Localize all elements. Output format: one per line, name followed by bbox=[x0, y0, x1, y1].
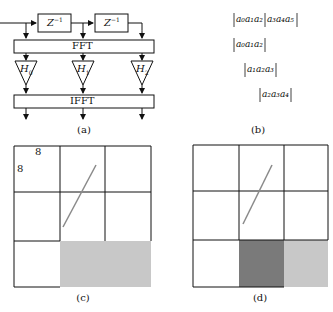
filter-label-h2: H2 bbox=[136, 63, 149, 76]
panel-c-grid bbox=[14, 146, 151, 287]
seq-row-0b: a₃a₄a₅ bbox=[267, 14, 294, 24]
delay-label-1: Z−1 bbox=[47, 16, 63, 28]
fft-label: FFT bbox=[72, 40, 93, 51]
seq-row-1: a₀a₁a₂ bbox=[236, 39, 263, 49]
panel-d-grid bbox=[193, 145, 328, 287]
dim-label-top: 8 bbox=[35, 146, 41, 157]
figure-canvas bbox=[0, 0, 333, 312]
seq-row-3: a₂a₃a₄ bbox=[262, 89, 289, 99]
seq-row-2: a₁a₂a₃ bbox=[247, 64, 274, 74]
delay-label-2: Z−1 bbox=[104, 16, 120, 28]
seq-row-0a: a₀a₁a₂ bbox=[236, 14, 263, 24]
caption-a: (a) bbox=[64, 124, 104, 135]
caption-c: (c) bbox=[63, 292, 103, 303]
caption-d: (d) bbox=[240, 292, 280, 303]
filter-label-h0: H0 bbox=[20, 63, 33, 76]
caption-b: (b) bbox=[238, 124, 278, 135]
ifft-label: IFFT bbox=[70, 95, 95, 106]
dim-label-left: 8 bbox=[17, 163, 23, 174]
filter-label-h1: H1 bbox=[77, 63, 90, 76]
